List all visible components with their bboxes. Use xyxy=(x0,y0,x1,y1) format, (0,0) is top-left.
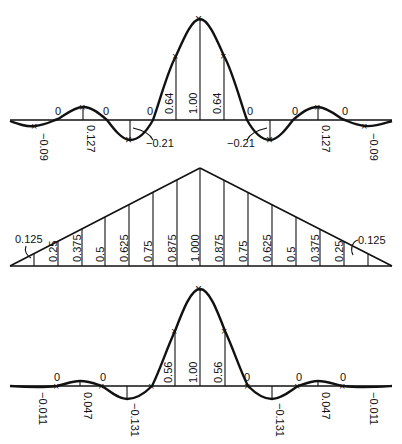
bottom-label-1.00: 1.00 xyxy=(187,362,199,383)
diagram-canvas: × × × × × × × × × 0 0 0 0 0 0 0.64 1.00 … xyxy=(0,0,402,444)
triangle-label: 0.5 xyxy=(285,247,297,262)
top-zero-label: 0 xyxy=(292,105,298,117)
svg-text:×: × xyxy=(220,50,226,62)
svg-text:×: × xyxy=(172,50,178,62)
top-plot: × × × × × × × × × 0 0 0 0 0 0 0.64 1.00 … xyxy=(10,12,392,161)
svg-text:×: × xyxy=(195,12,202,26)
triangle-label: 0.375 xyxy=(71,234,83,262)
svg-text:×: × xyxy=(125,133,132,147)
triangle-label: 0.25 xyxy=(47,241,59,262)
triangle-corner-label-left: 0.125 xyxy=(15,233,43,245)
top-label-1.00: 1.00 xyxy=(187,93,199,114)
triangle-label: 0.75 xyxy=(142,241,154,262)
svg-text:×: × xyxy=(266,133,273,147)
top-label-0.127-right: 0.127 xyxy=(320,125,332,153)
top-zero-label: 0 xyxy=(147,105,153,117)
triangle-label: 0.875 xyxy=(166,234,178,262)
triangle-label: 1.000 xyxy=(189,234,201,262)
top-curve xyxy=(10,19,392,140)
bottom-plot: × × × × × × × × × 0 0 0 0 0 0.56 1.00 0.… xyxy=(10,282,392,437)
top-label-neg0.21-left: −0.21 xyxy=(146,137,174,149)
triangle-corner-label-right: 0.125 xyxy=(358,234,386,246)
triangle-label: 0.5 xyxy=(94,247,106,262)
svg-text:×: × xyxy=(171,325,177,337)
triangle-label: 0.75 xyxy=(237,241,249,262)
svg-text:×: × xyxy=(314,101,320,113)
bottom-label-0.56-right: 0.56 xyxy=(212,362,224,383)
svg-text:×: × xyxy=(148,380,154,392)
bottom-label-neg0.011-right: −0.011 xyxy=(368,392,380,425)
bottom-label-0.047-left: 0.047 xyxy=(82,392,94,420)
top-label-neg0.09-left: −0.09 xyxy=(38,133,50,161)
bottom-zero-label: 0 xyxy=(100,371,106,383)
triangle-label: 0.375 xyxy=(309,234,321,262)
svg-text:×: × xyxy=(31,120,37,132)
bottom-curve xyxy=(10,289,392,399)
triangle-label: 0.875 xyxy=(213,234,225,262)
bottom-zero-label: 0 xyxy=(340,371,346,383)
top-label-neg0.21-right: −0.21 xyxy=(227,137,255,149)
top-label-neg0.09-right: −0.09 xyxy=(368,133,380,161)
top-markers: × × × × × × × × × xyxy=(31,12,367,147)
svg-text:×: × xyxy=(361,120,367,132)
bottom-label-0.047-right: 0.047 xyxy=(320,392,332,420)
bottom-label-neg0.131-left: −0.131 xyxy=(129,403,141,437)
svg-text:×: × xyxy=(221,325,227,337)
bottom-label-neg0.131-right: −0.131 xyxy=(274,403,286,437)
bottom-label-0.56-left: 0.56 xyxy=(162,362,174,383)
top-zero-label: 0 xyxy=(55,105,61,117)
top-label-0.64-left: 0.64 xyxy=(163,93,175,114)
top-zero-label: 0 xyxy=(342,105,348,117)
triangle-label: 0.25 xyxy=(333,241,345,262)
bottom-zero-label: 0 xyxy=(54,371,60,383)
bottom-zero-label: 0 xyxy=(244,371,250,383)
svg-text:×: × xyxy=(79,101,85,113)
top-zero-label: 0 xyxy=(247,105,253,117)
top-label-0.127-left: 0.127 xyxy=(85,125,97,153)
triangle-label: 0.625 xyxy=(261,234,273,262)
bottom-label-neg0.011-left: −0.011 xyxy=(37,392,49,425)
triangle-window: 0.25 0.375 0.5 0.625 0.75 0.875 1.000 0.… xyxy=(10,168,392,266)
top-label-0.64-right: 0.64 xyxy=(211,93,223,114)
svg-text:×: × xyxy=(195,282,202,296)
top-zero-label: 0 xyxy=(103,105,109,117)
bottom-zero-label: 0 xyxy=(296,371,302,383)
triangle-label: 0.625 xyxy=(118,234,130,262)
